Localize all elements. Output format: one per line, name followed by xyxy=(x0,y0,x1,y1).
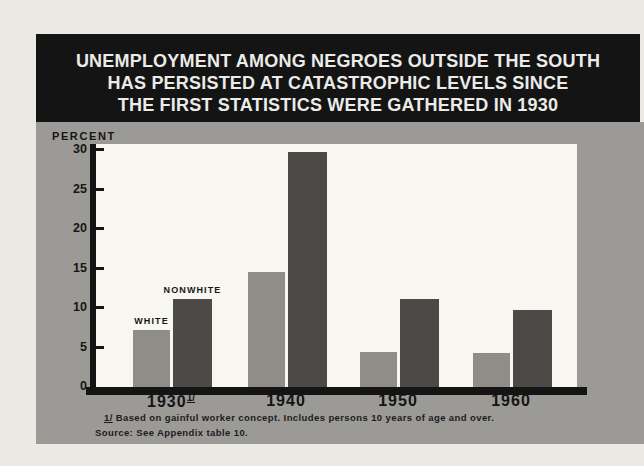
bar-white-1930 xyxy=(133,330,170,387)
series-label-nonwhite: NONWHITE xyxy=(138,285,248,295)
y-tick-label-20: 20 xyxy=(45,221,87,235)
bar-nonwhite-1930 xyxy=(173,299,212,387)
y-tick-mark-15 xyxy=(96,267,104,270)
bar-nonwhite-1960 xyxy=(513,310,552,387)
y-tick-label-25: 25 xyxy=(45,182,87,196)
chart-title-line-1: UNEMPLOYMENT AMONG NEGROES OUTSIDE THE S… xyxy=(36,50,640,72)
footnote-marker: 1/ xyxy=(104,412,113,423)
series-label-white: WHITE xyxy=(97,316,207,326)
y-tick-mark-10 xyxy=(96,306,104,309)
y-tick-label-30: 30 xyxy=(45,142,87,156)
bar-white-1940 xyxy=(248,272,285,387)
y-tick-mark-25 xyxy=(96,188,104,191)
y-axis-line xyxy=(90,144,96,395)
x-axis-label-1940: 1940 xyxy=(236,392,336,410)
y-axis-unit-label: PERCENT xyxy=(52,130,116,142)
x-axis-footnote-marker: 1/ xyxy=(187,392,195,403)
y-tick-label-5: 5 xyxy=(45,340,87,354)
chart-title-banner: UNEMPLOYMENT AMONG NEGROES OUTSIDE THE S… xyxy=(36,34,640,122)
chart-title-line-2: HAS PERSISTED AT CATASTROPHIC LEVELS SIN… xyxy=(36,72,640,94)
footnote: 1/Based on gainful worker concept. Inclu… xyxy=(104,412,494,423)
chart-title-line-3: THE FIRST STATISTICS WERE GATHERED IN 19… xyxy=(36,94,640,116)
report-page: UNEMPLOYMENT AMONG NEGROES OUTSIDE THE S… xyxy=(0,0,644,466)
y-tick-label-0: 0 xyxy=(45,379,87,393)
y-tick-mark-20 xyxy=(96,227,104,230)
y-tick-mark-5 xyxy=(96,346,104,349)
bar-nonwhite-1950 xyxy=(400,299,439,387)
x-axis-label-1930: 19301/ xyxy=(121,392,221,411)
x-axis-label-1960: 1960 xyxy=(461,392,561,410)
y-tick-mark-30 xyxy=(96,148,104,151)
source-note: Source: See Appendix table 10. xyxy=(95,427,248,438)
bar-white-1960 xyxy=(473,353,510,387)
bar-nonwhite-1940 xyxy=(288,152,327,387)
footnote-text: Based on gainful worker concept. Include… xyxy=(116,412,494,423)
y-tick-label-15: 15 xyxy=(45,261,87,275)
x-axis-label-1950: 1950 xyxy=(348,392,448,410)
y-tick-label-10: 10 xyxy=(45,300,87,314)
bar-white-1950 xyxy=(360,352,397,387)
chart-panel: PERCENT 1/Based on gainful worker concep… xyxy=(36,122,644,444)
